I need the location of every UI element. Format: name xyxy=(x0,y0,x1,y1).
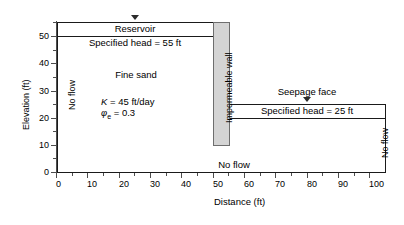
x-tick-label-10: 10 xyxy=(87,180,97,189)
reservoir-water-table-icon xyxy=(131,15,139,20)
x-tick-major-70 xyxy=(275,173,276,178)
impermeable-wall-label: Impermeable wall xyxy=(225,52,234,123)
y-tick-minor-5 xyxy=(53,158,56,159)
fine-sand-label: Fine sand xyxy=(115,70,157,80)
reservoir-label: Reservoir xyxy=(115,24,156,34)
x-tick-label-90: 90 xyxy=(338,180,348,189)
x-tick-major-80 xyxy=(307,173,308,178)
x-tick-major-40 xyxy=(181,173,182,178)
x-tick-minor-65 xyxy=(260,173,261,176)
x-tick-minor-25 xyxy=(134,173,135,176)
bottom-no-flow-boundary xyxy=(57,172,386,173)
y-tick-label-10: 10 xyxy=(34,141,49,150)
y-tick-minor-35 xyxy=(53,77,56,78)
specified-head-25-line xyxy=(229,118,386,119)
phi-value-rest: = 0.3 xyxy=(111,107,135,118)
y-tick-major-10 xyxy=(51,145,56,146)
specified-head-25-label: Specified head = 25 ft xyxy=(261,106,353,116)
x-tick-label-50: 50 xyxy=(213,180,223,189)
x-tick-minor-75 xyxy=(291,173,292,176)
x-tick-major-50 xyxy=(213,173,214,178)
k-value-rest: = 45 ft/day xyxy=(107,96,154,107)
x-tick-label-70: 70 xyxy=(275,180,285,189)
x-tick-major-20 xyxy=(119,173,120,178)
x-tick-minor-15 xyxy=(103,173,104,176)
x-tick-major-30 xyxy=(150,173,151,178)
x-tick-major-0 xyxy=(56,173,57,178)
seepage-water-table-icon xyxy=(303,97,311,102)
x-tick-minor-85 xyxy=(322,173,323,176)
y-tick-label-30: 30 xyxy=(34,87,49,96)
x-tick-minor-45 xyxy=(197,173,198,176)
bottom-no-flow-label: No flow xyxy=(218,160,250,170)
y-tick-major-20 xyxy=(51,118,56,119)
y-tick-label-40: 40 xyxy=(34,59,49,68)
x-tick-label-60: 60 xyxy=(244,180,254,189)
x-tick-major-100 xyxy=(369,173,370,178)
groundwater-cross-section-figure: 0 10 20 30 40 50 Elevation (ft) 0 10 20 … xyxy=(0,0,404,225)
x-tick-minor-55 xyxy=(228,173,229,176)
x-tick-label-20: 20 xyxy=(119,180,129,189)
y-tick-label-0: 0 xyxy=(40,168,49,177)
x-tick-label-40: 40 xyxy=(181,180,191,189)
x-tick-label-0: 0 xyxy=(56,180,61,189)
y-tick-major-40 xyxy=(51,63,56,64)
x-tick-label-80: 80 xyxy=(307,180,317,189)
y-tick-label-50: 50 xyxy=(34,32,49,41)
x-tick-label-100: 100 xyxy=(369,180,384,189)
x-tick-minor-5 xyxy=(72,173,73,176)
seepage-face-label: Seepage face xyxy=(278,87,337,97)
right-no-flow-label: No flow xyxy=(381,128,390,158)
x-tick-major-10 xyxy=(87,173,88,178)
y-axis-title: Elevation (ft) xyxy=(22,79,31,130)
porosity-label: φe = 0.3 xyxy=(101,108,135,122)
x-tick-minor-95 xyxy=(354,173,355,176)
hydraulic-conductivity-label: K = 45 ft/day xyxy=(101,97,155,107)
y-tick-minor-55 xyxy=(53,22,56,23)
left-no-flow-boundary xyxy=(57,22,58,172)
y-tick-major-50 xyxy=(51,36,56,37)
y-tick-label-20: 20 xyxy=(34,114,49,123)
x-tick-major-90 xyxy=(338,173,339,178)
y-tick-minor-15 xyxy=(53,131,56,132)
x-tick-minor-35 xyxy=(166,173,167,176)
specified-head-55-label: Specified head = 55 ft xyxy=(89,38,181,48)
x-tick-major-60 xyxy=(244,173,245,178)
y-tick-major-30 xyxy=(51,91,56,92)
y-tick-minor-25 xyxy=(53,104,56,105)
x-axis-title: Distance (ft) xyxy=(214,196,265,207)
x-tick-label-30: 30 xyxy=(150,180,160,189)
left-no-flow-label: No flow xyxy=(68,80,77,110)
y-tick-minor-45 xyxy=(53,50,56,51)
